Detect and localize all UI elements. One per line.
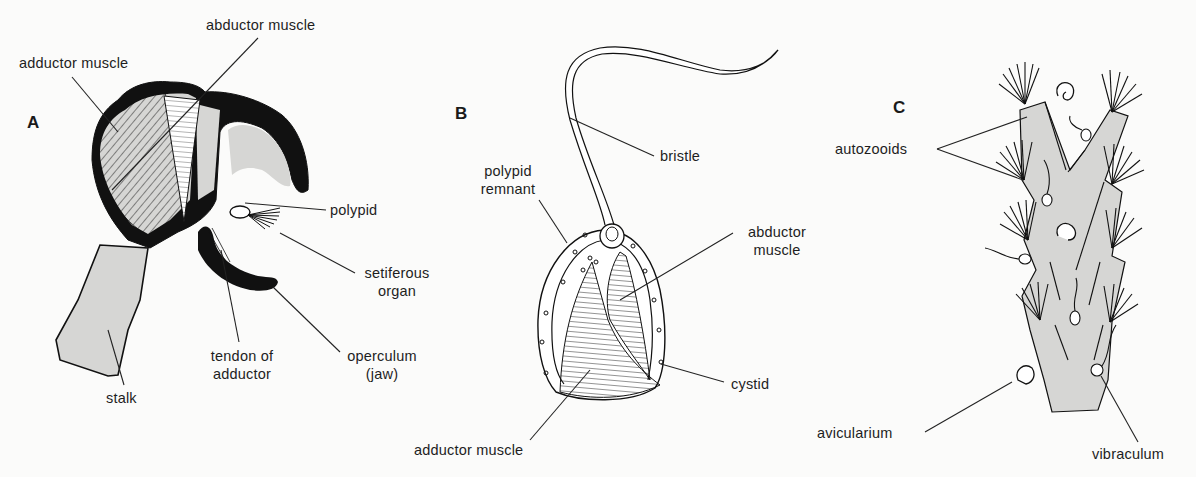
label-adductor-muscle-a: adductor muscle	[19, 54, 128, 72]
label-vibraculum: vibraculum	[1092, 445, 1164, 463]
label-polypid-remnant-line1: polypid	[470, 162, 546, 180]
operculum-shape	[198, 226, 278, 290]
setiferous-organ-shape	[248, 208, 280, 229]
label-polypid: polypid	[330, 201, 377, 219]
label-polypid-remnant-line2: remnant	[470, 180, 546, 198]
stalk-shape	[56, 245, 148, 376]
label-cystid: cystid	[731, 375, 769, 393]
label-stalk: stalk	[106, 389, 137, 407]
label-operculum-line2: (jaw)	[340, 365, 424, 383]
label-abductor-muscle-b-line2: muscle	[740, 241, 814, 259]
label-tendon-line1: tendon of	[198, 347, 286, 365]
label-polypid-remnant: polypid remnant	[470, 162, 546, 198]
label-setiferous-organ-line2: organ	[356, 282, 438, 300]
label-bristle: bristle	[660, 147, 700, 165]
panel-c-colony-drawing	[925, 62, 1144, 442]
label-adductor-muscle-b: adductor muscle	[414, 441, 523, 459]
bryozoan-heterozooids-figure: A B C abductor muscle adductor muscle po…	[0, 0, 1196, 477]
panel-letter-a: A	[27, 113, 39, 133]
label-avicularium: avicularium	[817, 424, 893, 442]
label-abductor-muscle-b-line1: abductor	[740, 223, 814, 241]
label-setiferous-organ: setiferous organ	[356, 264, 438, 300]
colony-body	[1020, 102, 1128, 412]
label-operculum-jaw: operculum (jaw)	[340, 347, 424, 383]
label-tendon-line2: adductor	[198, 365, 286, 383]
label-autozooids: autozooids	[835, 140, 907, 158]
bristle-shape	[565, 47, 778, 225]
label-abductor-muscle-a: abductor muscle	[206, 16, 315, 34]
figure-drawing	[0, 0, 1196, 477]
panel-letter-c: C	[893, 98, 905, 118]
polypid-shape	[230, 206, 250, 218]
label-tendon-of-adductor: tendon of adductor	[198, 347, 286, 383]
label-abductor-muscle-b: abductor muscle	[740, 223, 814, 259]
panel-a-avicularium-drawing	[56, 38, 355, 385]
label-operculum-line1: operculum	[340, 347, 424, 365]
panel-letter-b: B	[455, 104, 467, 124]
label-setiferous-organ-line1: setiferous	[356, 264, 438, 282]
